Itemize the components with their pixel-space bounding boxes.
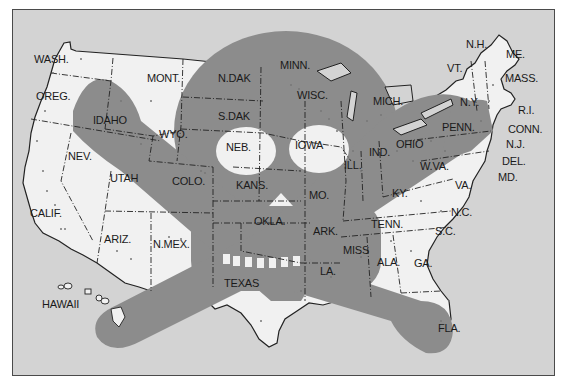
state-label-ri: R.I. <box>518 105 534 116</box>
state-label-utah: UTAH <box>110 173 138 184</box>
state-label-mont: MONT. <box>147 73 180 84</box>
state-label-minn: MINN. <box>280 60 310 71</box>
state-label-hawaii: HAWAII <box>42 299 79 310</box>
state-label-vt: VT. <box>447 63 462 74</box>
state-label-ky: KY. <box>392 188 408 199</box>
state-label-texas: TEXAS <box>224 278 259 289</box>
state-label-nh: N.H. <box>466 39 487 50</box>
state-label-la: LA. <box>320 266 336 277</box>
state-label-oreg: OREG. <box>36 91 70 102</box>
state-label-kans: KANS. <box>236 180 268 191</box>
state-label-ala: ALA. <box>377 257 400 268</box>
state-label-wva: W.VA. <box>420 161 449 172</box>
state-label-fla: FLA. <box>438 323 460 334</box>
state-label-iowa: IOWA <box>295 140 323 151</box>
state-label-nj: N.J. <box>506 139 525 150</box>
state-label-penn: PENN. <box>442 122 475 133</box>
state-label-mich: MICH. <box>373 96 403 107</box>
state-label-mo: MO. <box>309 190 329 201</box>
state-label-ind: IND. <box>369 147 390 158</box>
state-label-mass: MASS. <box>505 73 538 84</box>
state-label-neb: NEB. <box>226 142 251 153</box>
state-label-me: ME. <box>506 49 525 60</box>
state-label-sdak: S.DAK <box>218 111 250 122</box>
state-label-wisc: WISC. <box>297 90 328 101</box>
state-label-sc: S.C. <box>435 226 456 237</box>
state-label-idaho: IDAHO <box>93 115 127 126</box>
state-label-ny: N.Y. <box>460 97 479 108</box>
state-label-ohio: OHIO <box>396 139 423 150</box>
state-label-nev: NEV. <box>68 151 92 162</box>
state-label-ndak: N.DAK <box>218 73 251 84</box>
state-label-ark: ARK. <box>313 226 338 237</box>
state-label-conn: CONN. <box>508 124 542 135</box>
state-label-ga: GA. <box>414 258 432 269</box>
state-label-ariz: ARIZ. <box>104 234 131 245</box>
state-label-nmex: N.MEX. <box>153 239 190 250</box>
state-label-miss: MISS <box>343 245 369 256</box>
state-label-colo: COLO. <box>172 176 205 187</box>
state-label-md: MD. <box>498 172 518 183</box>
state-label-va: VA. <box>455 180 471 191</box>
state-label-ill: ILL. <box>344 160 362 171</box>
state-label-tenn: TENN. <box>371 219 403 230</box>
state-label-nc: N.C. <box>451 207 472 218</box>
state-label-okla: OKLA. <box>254 216 285 227</box>
state-label-del: DEL. <box>502 156 526 167</box>
state-label-wyo: WYO. <box>159 129 188 140</box>
state-label-wash: WASH. <box>34 54 69 65</box>
state-label-calif: CALIF. <box>30 208 62 219</box>
